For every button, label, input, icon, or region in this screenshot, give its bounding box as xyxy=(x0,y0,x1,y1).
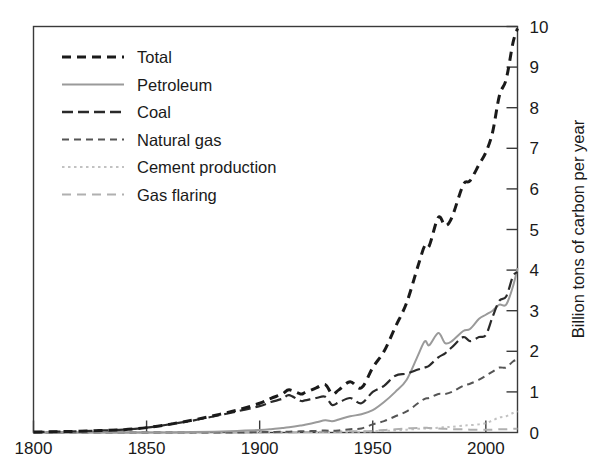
y-axis-tick-labels: 012345678910 xyxy=(530,18,549,443)
y-axis-ticks xyxy=(507,27,518,392)
y-tick-label-4: 4 xyxy=(530,261,539,280)
y-tick-label-6: 6 xyxy=(530,180,539,199)
legend-label-natural-gas: Natural gas xyxy=(137,131,221,149)
y-tick-label-1: 1 xyxy=(530,383,539,402)
series-lines xyxy=(34,29,518,433)
legend-label-cement-production: Cement production xyxy=(137,158,276,176)
y-tick-label-9: 9 xyxy=(530,58,539,77)
x-axis-tick-labels: 18001850190019502000 xyxy=(15,439,505,458)
x-tick-label-1800: 1800 xyxy=(15,439,53,458)
y-tick-label-5: 5 xyxy=(530,221,539,240)
legend-label-petroleum: Petroleum xyxy=(137,76,212,94)
x-tick-label-2000: 2000 xyxy=(467,439,505,458)
emissions-line-chart: 18001850190019502000 012345678910 Billio… xyxy=(0,0,609,472)
legend-label-gas-flaring: Gas flaring xyxy=(137,186,217,204)
x-tick-label-1950: 1950 xyxy=(354,439,392,458)
chart-figure: 18001850190019502000 012345678910 Billio… xyxy=(0,0,609,472)
series-line-total xyxy=(34,29,518,433)
x-tick-label-1900: 1900 xyxy=(241,439,279,458)
chart-legend: TotalPetroleumCoalNatural gasCement prod… xyxy=(62,48,276,204)
y-axis-title: Billion tons of carbon per year xyxy=(569,119,587,338)
y-tick-label-0: 0 xyxy=(530,424,539,443)
y-tick-label-3: 3 xyxy=(530,302,539,321)
series-line-petroleum xyxy=(34,268,518,432)
legend-label-coal: Coal xyxy=(137,103,171,121)
series-line-coal xyxy=(34,272,518,432)
x-tick-label-1850: 1850 xyxy=(128,439,166,458)
legend-label-total: Total xyxy=(137,48,172,66)
plot-frame xyxy=(34,27,518,433)
y-tick-label-10: 10 xyxy=(530,18,549,37)
y-axis-title-text: Billion tons of carbon per year xyxy=(569,119,587,338)
y-tick-label-8: 8 xyxy=(530,99,539,118)
y-tick-label-7: 7 xyxy=(530,139,539,158)
y-tick-label-2: 2 xyxy=(530,342,539,361)
